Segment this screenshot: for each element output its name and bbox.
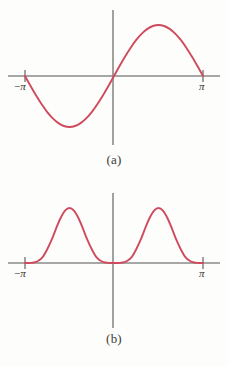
x-axis-label-pi-a: π [199, 80, 205, 92]
x-axis-label-minus-pi-b: −π [14, 267, 26, 279]
plot-area-b [0, 183, 228, 333]
panel-caption-b: (b) [0, 331, 228, 347]
curve-sine-squared-b [25, 208, 203, 263]
pi-glyph-b: π [20, 267, 26, 279]
figure-panel-a: −π π (a) [0, 0, 228, 183]
plot-svg-b [0, 183, 228, 333]
plot-area-a [0, 0, 228, 150]
x-axis-label-pi-b: π [199, 267, 205, 279]
figure-panel-b: −π π (b) [0, 183, 228, 366]
x-axis-label-minus-pi-a: −π [14, 80, 26, 92]
panel-caption-a: (a) [0, 152, 228, 168]
plot-svg-a [0, 0, 228, 150]
pi-glyph-a: π [20, 80, 26, 92]
